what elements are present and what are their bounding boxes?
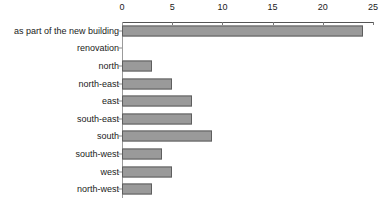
bar-north-west [122,184,152,195]
y-axis-tick-mark [118,48,122,49]
bar-south [122,131,212,142]
bar-rows: as part of the new building renovation n… [0,22,387,198]
x-axis-tick-labels: 0 5 10 15 20 25 [0,0,387,22]
category-label-north-west: north-west [77,184,119,195]
category-label-south-east: south-east [77,113,119,124]
category-label-east: east [102,96,119,107]
category-label-west: west [100,166,119,177]
bar-row: west [0,163,387,181]
bar-west [122,166,172,177]
x-axis-tick-label-5: 5 [170,2,175,13]
x-axis-tick-label-20: 20 [318,2,328,13]
bar-chart: 0 5 10 15 20 25 as part of the new build… [0,0,387,200]
category-label-south: south [97,131,119,142]
bar-row: south-west [0,145,387,163]
bar-south-east [122,113,192,124]
x-axis-tick-label-15: 15 [268,2,278,13]
bar-north [122,60,152,71]
category-label-north-east: north-east [78,78,119,89]
category-label-south-west: south-west [75,148,119,159]
bar-row: renovation [0,40,387,58]
bar-row: north [0,57,387,75]
bar-north-east [122,78,172,89]
bar-row: as part of the new building [0,22,387,40]
category-label-renovation: renovation [77,43,119,54]
bar-south-west [122,148,162,159]
bar-east [122,96,192,107]
x-axis-tick-label-0: 0 [119,2,124,13]
bar-row: east [0,92,387,110]
bar-as-part-of-the-new-building [122,25,363,36]
x-axis-tick-label-25: 25 [368,2,378,13]
x-axis-tick-label-10: 10 [217,2,227,13]
bar-row: north-east [0,75,387,93]
bar-row: south-east [0,110,387,128]
category-label-north: north [98,60,119,71]
bar-row: south [0,128,387,146]
bar-row: north-west [0,180,387,198]
category-label-as-part-of-the-new-building: as part of the new building [14,25,119,36]
